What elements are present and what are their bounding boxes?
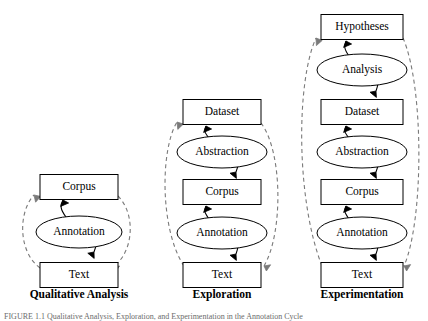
node-exploration-corpus[interactable]: Corpus [183,180,261,205]
solid-edge-annotation-to-corpus [61,200,69,217]
node-label: Dataset [345,105,380,117]
node-label: Text [352,268,373,280]
node-exploration-abstraction[interactable]: Abstraction [177,136,267,168]
figure-caption: FIGURE 1.1 Qualitative Analysis, Explora… [4,312,303,321]
arrowhead-icon [88,252,94,258]
panel-qualitative-analysis: CorpusAnnotationTextQualitative Analysis [23,175,131,301]
arrowhead-icon [204,206,212,212]
node-experimentation-analysis[interactable]: Analysis [317,54,407,86]
node-experimentation-dataset[interactable]: Dataset [321,100,403,125]
arrowhead-icon [370,254,376,260]
node-qualitative-analysis-corpus[interactable]: Corpus [40,175,118,200]
node-qualitative-analysis-text[interactable]: Text [40,263,118,288]
panel-title-qualitative-analysis: Qualitative Analysis [30,288,129,301]
arrowhead-icon [344,41,352,47]
panel-experimentation: HypothesesAnalysisDatasetAbstractionCorp… [302,15,419,301]
node-experimentation-corpus[interactable]: Corpus [321,180,403,205]
node-exploration-dataset[interactable]: Dataset [183,100,261,125]
node-experimentation-hypotheses[interactable]: Hypotheses [321,15,403,40]
node-label: Corpus [345,185,379,198]
node-label: Corpus [62,180,96,193]
arrowhead-icon [264,265,271,271]
arrowhead-icon [344,206,352,212]
panel-title-exploration: Exploration [193,288,252,301]
node-exploration-text[interactable]: Text [183,263,261,288]
node-label: Abstraction [335,145,389,157]
arrowhead-icon [370,91,376,97]
solid-edge-analysis-to-hypotheses [344,41,352,56]
node-experimentation-text[interactable]: Text [321,263,403,288]
annotation-cycle-figure: CorpusAnnotationTextQualitative Analysis… [0,0,428,321]
node-experimentation-abstraction[interactable]: Abstraction [317,136,407,168]
arrowhead-icon [61,200,69,206]
node-label: Dataset [205,105,240,117]
arrowhead-icon [230,172,236,178]
panel-title-experimentation: Experimentation [320,288,404,301]
edge-path [261,123,278,266]
node-label: Annotation [196,226,248,238]
node-label: Text [212,268,233,280]
arrowhead-icon [177,122,183,129]
figure-canvas: CorpusAnnotationTextQualitative Analysis… [0,0,428,321]
arrowhead-icon [370,172,376,178]
node-qualitative-analysis-annotation[interactable]: Annotation [36,216,122,248]
arrowhead-icon [404,265,411,271]
edge-path [165,122,184,266]
node-label: Annotation [336,226,388,238]
node-label: Text [69,268,90,280]
node-label: Corpus [205,185,239,198]
node-exploration-annotation[interactable]: Annotation [177,217,267,249]
node-experimentation-annotation[interactable]: Annotation [317,217,407,249]
node-label: Annotation [53,225,105,237]
arrowhead-icon [204,126,212,132]
node-label: Abstraction [195,145,249,157]
node-label: Analysis [342,63,383,76]
node-label: Hypotheses [335,20,389,33]
panel-exploration: DatasetAbstractionCorpusAnnotationTextEx… [165,100,278,301]
arrowhead-icon [344,126,352,132]
dashed-edge-text-to-dataset-left [165,122,184,266]
arrowhead-icon [230,254,236,260]
